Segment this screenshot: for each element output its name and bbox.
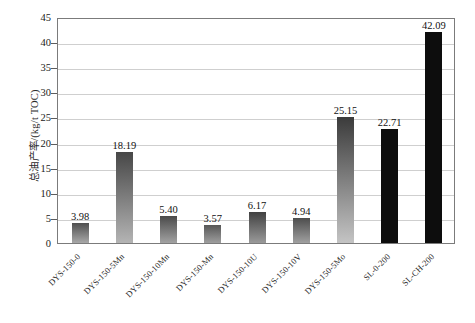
bar — [116, 152, 133, 243]
bar-value-label: 6.17 — [235, 201, 279, 212]
gridline — [58, 94, 454, 95]
y-tick-label: 15 — [17, 164, 51, 175]
gridline — [58, 69, 454, 70]
bar-chart: 总油产率/(kg/t TOC) 051015202530354045 3.981… — [0, 0, 475, 323]
bar-value-label: 4.94 — [279, 207, 323, 218]
y-tick-label: 0 — [17, 239, 51, 250]
y-tick-label: 5 — [17, 214, 51, 225]
bar-value-label: 25.15 — [323, 106, 367, 117]
y-tick-label: 10 — [17, 189, 51, 200]
bar — [249, 212, 266, 243]
bar-value-label: 5.40 — [147, 205, 191, 216]
gridline — [58, 44, 454, 45]
bar-value-label: 3.98 — [58, 212, 102, 223]
y-tick-label: 30 — [17, 88, 51, 99]
bar — [337, 117, 354, 243]
bar — [72, 223, 89, 243]
bar-value-label: 22.71 — [368, 118, 412, 129]
plot-area: 3.9818.195.403.576.174.9425.1522.7142.09 — [57, 18, 455, 244]
bar-value-label: 42.09 — [412, 21, 456, 32]
y-tick-label: 25 — [17, 113, 51, 124]
bar — [160, 216, 177, 243]
y-tick-label: 35 — [17, 63, 51, 74]
bar-value-label: 18.19 — [102, 141, 146, 152]
bar — [293, 218, 310, 243]
bar — [425, 32, 442, 243]
bar — [381, 129, 398, 243]
y-tick-label: 45 — [17, 13, 51, 24]
bar-value-label: 3.57 — [191, 214, 235, 225]
bar — [204, 225, 221, 243]
y-tick-label: 40 — [17, 38, 51, 49]
y-tick-label: 20 — [17, 139, 51, 150]
